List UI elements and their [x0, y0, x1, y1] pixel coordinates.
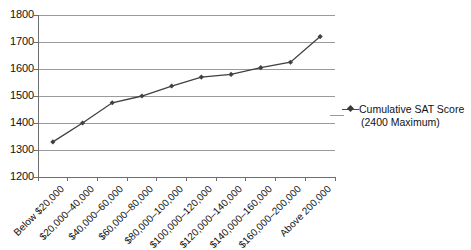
chart-legend: Cumulative SAT Score (2400 Maximum) [342, 103, 470, 129]
legend-label: Cumulative SAT Score (2400 Maximum) [359, 103, 470, 129]
legend-label-line1: Cumulative SAT Score [359, 103, 464, 115]
legend-line-marker-icon [342, 103, 359, 116]
legend-label-line2: (2400 Maximum) [359, 116, 440, 128]
x-tick-label: Below $20,000 [12, 184, 66, 238]
legend-item: Cumulative SAT Score (2400 Maximum) [342, 103, 470, 129]
